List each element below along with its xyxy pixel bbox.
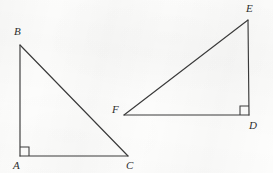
vertex-label-d: D — [249, 120, 257, 131]
vertex-label-c: C — [126, 160, 133, 171]
hypotenuse-bc — [20, 45, 128, 156]
vertex-label-b: B — [14, 26, 21, 37]
triangle-def — [124, 20, 249, 115]
right-angle-mark-d — [240, 106, 249, 115]
vertex-label-a: A — [13, 160, 20, 171]
vertex-label-f: F — [112, 104, 119, 115]
vertex-label-e: E — [246, 3, 253, 14]
triangle-abc — [20, 45, 128, 156]
right-angle-mark-a — [20, 147, 29, 156]
triangles-canvas — [0, 0, 273, 173]
hypotenuse-ef — [124, 20, 248, 115]
leg-de — [248, 20, 249, 115]
geometry-figure: B A C E F D — [0, 0, 273, 173]
